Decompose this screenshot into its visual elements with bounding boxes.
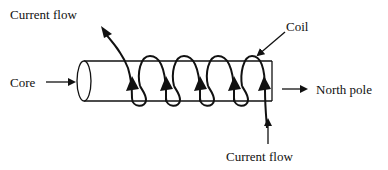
core-label: Core [10, 76, 35, 89]
coil-arrow-icon [258, 32, 285, 55]
current-flow-bottom-label: Current flow [226, 150, 293, 163]
coil-label: Coil [286, 20, 308, 33]
current-flow-top-label: Current flow [10, 8, 77, 21]
coil-winding [104, 32, 267, 128]
current-flow-top-arrow-icon [101, 26, 112, 38]
north-pole-label: North pole [316, 83, 372, 96]
